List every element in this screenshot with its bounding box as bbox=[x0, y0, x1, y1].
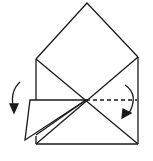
right-arrow-head bbox=[122, 109, 131, 118]
roof-triangle bbox=[36, 3, 138, 59]
left-arrow-head bbox=[10, 104, 18, 113]
origami-diagram bbox=[0, 0, 153, 161]
